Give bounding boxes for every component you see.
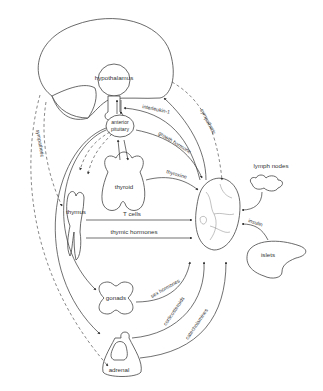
islets: islets xyxy=(247,241,306,278)
adrenal-label: adrenal xyxy=(109,366,130,373)
interleukin-label: interleukin-1 xyxy=(142,103,171,115)
lymph-nodes-arrow xyxy=(242,192,262,210)
thyroid-label: thyroid xyxy=(115,183,134,190)
gonads: gonads xyxy=(99,282,133,314)
thyroxine-arrow xyxy=(146,178,198,190)
adrenal: adrenal xyxy=(103,332,142,377)
thymic-hormones-label: thymic hormones xyxy=(110,228,157,235)
sympathetic-left-label: sympathetic xyxy=(35,129,46,158)
diagram-canvas: hypothalamus anterior pituitary thyroid … xyxy=(0,0,323,391)
thymus-label: thymus xyxy=(66,208,86,215)
thyroid: thyroid xyxy=(102,152,145,211)
corticosteroids-label: corticosteroids xyxy=(162,295,186,326)
t-cells-label: T cells xyxy=(123,210,141,217)
anterior-pituitary: anterior pituitary xyxy=(106,115,134,137)
hypothalamus-label: hypothalamus xyxy=(95,74,134,81)
pituitary-adrenal-arrow xyxy=(55,128,106,334)
svg-text:anterior: anterior xyxy=(111,119,129,125)
sex-hormones-arrow xyxy=(136,262,190,302)
immune-cell xyxy=(196,178,240,250)
insulin-label: insulin xyxy=(248,217,264,227)
thymus: thymus xyxy=(66,192,86,261)
lymph-nodes: lymph nodes xyxy=(250,162,288,191)
sympathetic-right-label: sympathetic xyxy=(199,108,217,136)
catecholamines-arrow xyxy=(140,262,226,358)
lymph-nodes-label: lymph nodes xyxy=(253,162,288,169)
svg-text:pituitary: pituitary xyxy=(111,126,130,132)
insulin-arrow xyxy=(242,224,268,240)
islets-label: islets xyxy=(261,251,275,258)
gonads-label: gonads xyxy=(106,294,126,301)
growth-hormone-label: growth hormone xyxy=(157,130,192,155)
sympathetic-left-thymus xyxy=(44,102,62,206)
